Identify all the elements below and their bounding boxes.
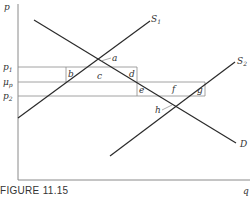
figure-caption: FIGURE 11.15 xyxy=(0,185,69,196)
area-c: c xyxy=(97,71,102,81)
s1-label: S1 xyxy=(151,14,161,25)
supply-demand-diagram: p q p1 μp p2 S1 S2 D a b c d e f g h FIG… xyxy=(0,0,252,198)
y-axis-label: p xyxy=(4,2,10,12)
area-e: e xyxy=(139,85,144,95)
area-b: b xyxy=(68,69,74,79)
d-label: D xyxy=(239,139,247,149)
x-axis-label: q xyxy=(243,186,249,196)
demand-curve xyxy=(34,20,236,143)
s2-label: S2 xyxy=(237,56,247,67)
area-f: f xyxy=(171,84,177,94)
h-pointer xyxy=(162,105,172,110)
area-a: a xyxy=(112,53,117,63)
area-g: g xyxy=(197,85,203,95)
a-pointer xyxy=(101,58,111,61)
mu-p-label: μp xyxy=(3,77,13,89)
area-h: h xyxy=(155,105,161,115)
p2-label: p2 xyxy=(3,91,13,102)
area-d: d xyxy=(129,69,135,79)
p1-label: p1 xyxy=(3,62,13,73)
